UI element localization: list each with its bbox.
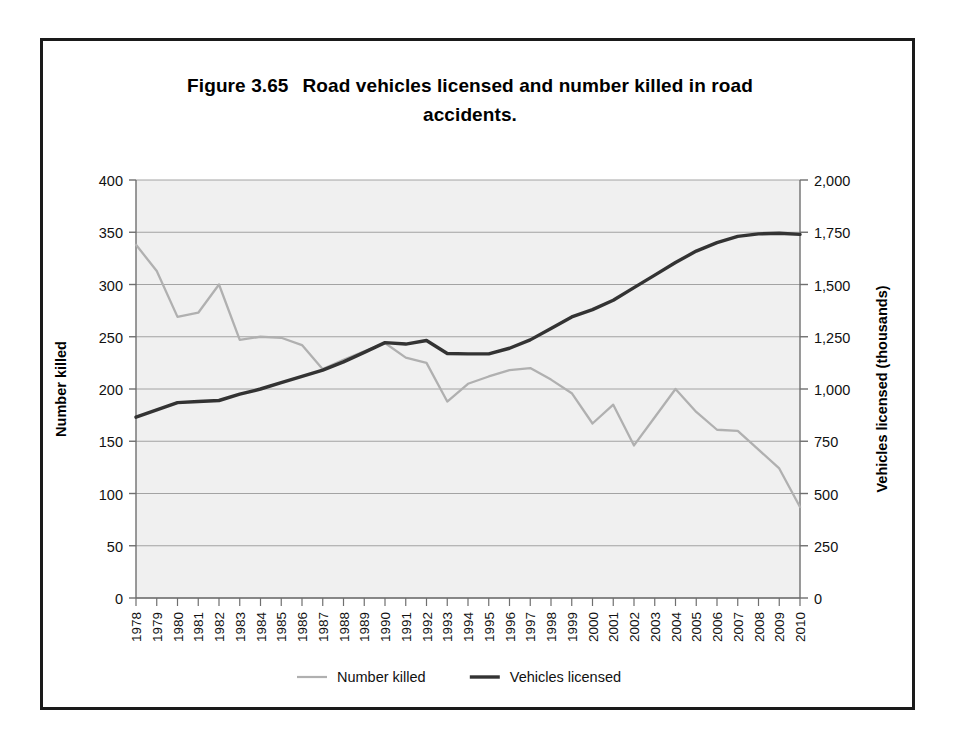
x-axis-tick-label: 1984	[254, 612, 269, 643]
x-axis-tick-label: 1980	[171, 612, 186, 642]
x-axis-tick-label: 2001	[606, 612, 621, 642]
y-axis-right-tick-label: 1,000	[814, 382, 850, 398]
y-axis-right-title: Vehicles licensed (thousands)	[874, 285, 890, 492]
x-axis-tick-label: 1987	[316, 612, 331, 642]
y-axis-right-tick-label: 250	[814, 539, 838, 555]
y-axis-left-tick-label: 50	[107, 539, 123, 555]
y-axis-right-tick-label: 1,500	[814, 278, 850, 294]
y-axis-left-tick-label: 300	[99, 278, 123, 294]
x-axis-tick-label: 1989	[357, 612, 372, 642]
x-axis-tick-label: 1992	[420, 612, 435, 642]
line-chart: 05010015020025030035040002505007501,0001…	[40, 150, 915, 710]
y-axis-right-tick-label: 1,250	[814, 330, 850, 346]
y-axis-left-tick-label: 350	[99, 225, 123, 241]
x-axis-tick-label: 1993	[440, 612, 455, 642]
x-axis-tick-label: 1983	[233, 612, 248, 642]
legend-label: Number killed	[337, 669, 426, 685]
x-axis-tick-label: 2006	[710, 612, 725, 642]
y-axis-right-tick-label: 750	[814, 434, 838, 450]
x-axis-tick-label: 1999	[565, 612, 580, 642]
x-axis-tick-label: 1978	[129, 612, 144, 642]
figure-title: Figure 3.65Road vehicles licensed and nu…	[70, 72, 870, 129]
y-axis-right-tick-label: 500	[814, 487, 838, 503]
figure-page: Figure 3.65Road vehicles licensed and nu…	[0, 0, 961, 750]
x-axis-tick-label: 1998	[544, 612, 559, 642]
figure-title-line2: accidents.	[70, 101, 870, 130]
x-axis-tick-label: 2000	[586, 612, 601, 642]
x-axis-tick-label: 1986	[295, 612, 310, 642]
y-axis-left-tick-label: 150	[99, 434, 123, 450]
x-axis-tick-label: 2009	[772, 612, 787, 642]
x-axis-tick-label: 1995	[482, 612, 497, 642]
x-axis-tick-label: 1982	[212, 612, 227, 642]
y-axis-left-title: Number killed	[53, 341, 69, 437]
y-axis-left-tick-label: 0	[115, 591, 123, 607]
x-axis-tick-label: 1985	[274, 612, 289, 642]
x-axis-tick-label: 2003	[648, 612, 663, 642]
y-axis-right-tick-label: 2,000	[814, 173, 850, 189]
y-axis-left-tick-label: 400	[99, 173, 123, 189]
x-axis-tick-label: 1994	[461, 612, 476, 643]
x-axis-tick-label: 2004	[669, 612, 684, 643]
x-axis-tick-label: 1988	[337, 612, 352, 642]
y-axis-left-tick-label: 200	[99, 382, 123, 398]
x-axis-tick-label: 2005	[689, 612, 704, 642]
figure-title-line1: Road vehicles licensed and number killed…	[303, 75, 753, 96]
figure-number: Figure 3.65	[187, 75, 288, 96]
y-axis-right-tick-label: 1,750	[814, 225, 850, 241]
y-axis-left-tick-label: 100	[99, 487, 123, 503]
y-axis-right-tick-label: 0	[814, 591, 822, 607]
x-axis-tick-label: 2008	[752, 612, 767, 642]
chart-area: 05010015020025030035040002505007501,0001…	[40, 150, 915, 710]
x-axis-tick-label: 2002	[627, 612, 642, 642]
y-axis-left-tick-label: 250	[99, 330, 123, 346]
x-axis-tick-label: 1996	[503, 612, 518, 642]
x-axis-tick-label: 1991	[399, 612, 414, 642]
x-axis-tick-label: 2010	[793, 612, 808, 642]
x-axis-tick-label: 1997	[523, 612, 538, 642]
x-axis-tick-label: 1979	[150, 612, 165, 642]
x-axis-tick-label: 1981	[191, 612, 206, 642]
x-axis-tick-label: 1990	[378, 612, 393, 642]
legend-label: Vehicles licensed	[510, 669, 621, 685]
x-axis-tick-label: 2007	[731, 612, 746, 642]
